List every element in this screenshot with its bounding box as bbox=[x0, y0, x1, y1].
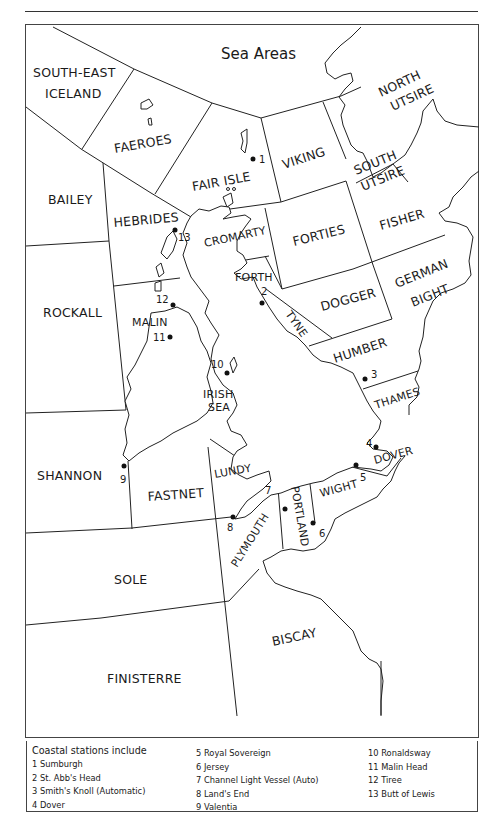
legend-column-1: Coastal stations include 1 Sumburgh 2 St… bbox=[32, 741, 147, 812]
legend-station: 11 Malin Head bbox=[368, 761, 435, 775]
svg-text:7: 7 bbox=[265, 485, 271, 496]
legend-station: 2 St. Abb's Head bbox=[32, 772, 147, 786]
svg-text:10: 10 bbox=[211, 359, 224, 370]
svg-text:6: 6 bbox=[319, 528, 325, 539]
ireland-outline bbox=[123, 307, 213, 461]
legend-station: 13 Butt of Lewis bbox=[368, 788, 435, 802]
svg-text:11: 11 bbox=[153, 332, 166, 343]
legend-station: 10 Ronaldsway bbox=[368, 747, 435, 761]
svg-text:4: 4 bbox=[366, 438, 372, 449]
label-thames: THAMES bbox=[372, 385, 422, 412]
sea-areas-map: 1 2 3 4 5 6 7 8 9 10 11 12 13 Sea Areas … bbox=[25, 24, 479, 738]
label-hebrides: HEBRIDES bbox=[113, 209, 179, 230]
label-fisher: FISHER bbox=[378, 206, 426, 233]
label-humber: HUMBER bbox=[331, 334, 389, 366]
label-biscay: BISCAY bbox=[271, 625, 319, 649]
label-german-bight-2: BIGHT bbox=[409, 281, 452, 310]
legend-station: 8 Land's End bbox=[196, 788, 319, 802]
label-dogger: DOGGER bbox=[319, 285, 378, 314]
legend-station: 5 Royal Sovereign bbox=[196, 747, 319, 761]
legend-station: 7 Channel Light Vessel (Auto) bbox=[196, 774, 319, 788]
svg-text:5: 5 bbox=[360, 472, 366, 483]
svg-text:8: 8 bbox=[227, 522, 233, 533]
label-viking: VIKING bbox=[280, 144, 327, 172]
svg-text:2: 2 bbox=[261, 286, 267, 297]
label-forties: FORTIES bbox=[291, 221, 346, 248]
label-faeroes: FAEROES bbox=[113, 131, 173, 156]
top-rule bbox=[25, 11, 478, 12]
label-bailey: BAILEY bbox=[48, 192, 93, 207]
label-south-east-iceland-2: ICELAND bbox=[45, 86, 102, 101]
svg-text:3: 3 bbox=[371, 369, 377, 380]
label-fair-isle: FAIR ISLE bbox=[191, 169, 252, 194]
label-portland: PORTLAND bbox=[288, 485, 311, 547]
map-title: Sea Areas bbox=[221, 45, 296, 63]
svg-text:13: 13 bbox=[178, 232, 191, 243]
coastlines bbox=[123, 27, 479, 715]
svg-text:1: 1 bbox=[259, 154, 265, 165]
legend-column-3: 10 Ronaldsway 11 Malin Head 12 Tiree 13 … bbox=[368, 747, 435, 801]
label-dover: DOVER bbox=[372, 444, 414, 467]
legend-station: 3 Smith's Knoll (Automatic) bbox=[32, 785, 147, 799]
svg-text:12: 12 bbox=[156, 294, 169, 305]
label-malin: MALIN bbox=[132, 316, 168, 329]
legend-station: 9 Valentia bbox=[196, 801, 319, 814]
label-irish-sea: IRISH bbox=[203, 388, 233, 401]
label-south-east-iceland: SOUTH-EAST bbox=[33, 65, 116, 80]
svg-text:9: 9 bbox=[120, 474, 126, 485]
label-wight: WIGHT bbox=[318, 477, 359, 500]
map-canvas: 1 2 3 4 5 6 7 8 9 10 11 12 13 Sea Areas … bbox=[26, 25, 480, 739]
label-rockall: ROCKALL bbox=[43, 305, 102, 320]
label-plymouth: PLYMOUTH bbox=[229, 511, 272, 569]
legend-heading: Coastal stations include bbox=[32, 743, 147, 758]
label-irish-sea-2: SEA bbox=[208, 401, 230, 414]
legend-station: 12 Tiree bbox=[368, 774, 435, 788]
legend-station: 6 Jersey bbox=[196, 761, 319, 775]
label-forth: FORTH bbox=[235, 271, 273, 284]
legend-station: 4 Dover bbox=[32, 799, 147, 813]
legend-station: 1 Sumburgh bbox=[32, 758, 147, 772]
coastal-stations-legend: Coastal stations include 1 Sumburgh 2 St… bbox=[26, 741, 478, 812]
label-sole: SOLE bbox=[114, 572, 147, 587]
legend-column-2: 5 Royal Sovereign 6 Jersey 7 Channel Lig… bbox=[196, 747, 319, 814]
label-finisterre: FINISTERRE bbox=[107, 671, 182, 686]
label-fastnet: FASTNET bbox=[147, 485, 205, 504]
label-shannon: SHANNON bbox=[37, 468, 102, 483]
